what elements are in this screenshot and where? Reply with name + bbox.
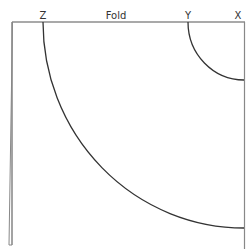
arc-y: [188, 22, 244, 80]
label-y: Y: [184, 10, 192, 21]
arc-z: [43, 22, 244, 228]
label-x: X: [235, 10, 242, 21]
label-fold: Fold: [106, 10, 127, 21]
label-z: Z: [40, 10, 47, 21]
fold-diagram: Z Fold Y X: [0, 0, 246, 249]
